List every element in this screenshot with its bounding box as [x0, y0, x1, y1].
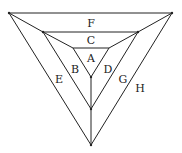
label-f: F — [87, 17, 95, 30]
vertex-dot — [90, 144, 92, 146]
label-b: B — [71, 63, 79, 76]
vertex-dot — [42, 31, 44, 33]
vertex-dot — [90, 76, 92, 78]
vertex-dot — [8, 12, 10, 14]
label-a: A — [86, 52, 96, 65]
vertex-dot — [137, 31, 139, 33]
vertex-dot — [90, 108, 92, 110]
label-d: D — [104, 63, 113, 76]
label-e: E — [55, 73, 63, 86]
label-g: G — [119, 73, 128, 86]
vertex-dot — [171, 12, 173, 14]
label-c: C — [87, 34, 95, 47]
connector-lines — [9, 13, 172, 145]
connector-line — [138, 13, 172, 32]
connector-line — [9, 13, 43, 32]
nested-triangles-diagram: F C A B D E G H — [0, 0, 182, 153]
label-h: H — [135, 82, 145, 95]
